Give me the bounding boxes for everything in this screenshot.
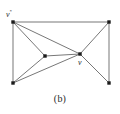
graph-edge xyxy=(13,54,80,83)
vertex-label-v: v xyxy=(78,59,82,67)
graph-edge xyxy=(13,56,45,83)
graph-edge xyxy=(80,54,109,83)
graph-vertex xyxy=(43,54,46,57)
graph-vertex xyxy=(11,20,14,23)
graph-edge xyxy=(45,54,80,56)
figure-container: v* v (b) xyxy=(0,0,120,114)
graph-edge xyxy=(80,22,109,54)
vertex-label-v-star: v* xyxy=(6,9,12,19)
graph-vertex xyxy=(107,81,110,84)
graph-vertex xyxy=(107,20,110,23)
edges-group xyxy=(13,22,109,83)
vertices-group xyxy=(11,20,110,84)
graph-vertex xyxy=(11,81,14,84)
figure-caption: (b) xyxy=(0,93,120,104)
graph-edge xyxy=(13,22,80,54)
vertex-label-v-star-superscript: * xyxy=(10,9,13,14)
graph-edge xyxy=(13,22,45,56)
graph-vertex xyxy=(78,52,81,55)
